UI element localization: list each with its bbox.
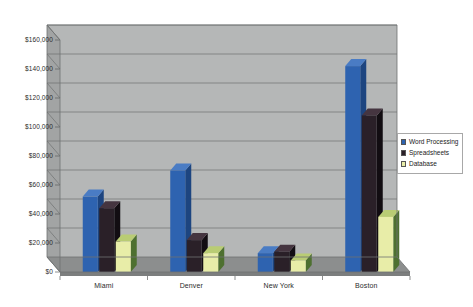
- x-axis-category-label: Boston: [326, 282, 406, 289]
- y-axis-tick-label: $0: [46, 268, 53, 275]
- legend-item-label: Word Processing: [409, 138, 458, 146]
- legend-item[interactable]: Database: [401, 159, 459, 169]
- x-axis-category-label: Denver: [151, 282, 231, 289]
- legend-item-label: Spreadsheets: [409, 149, 449, 157]
- chart-legend: Word ProcessingSpreadsheetsDatabase: [397, 133, 463, 174]
- y-axis-tick-label: $100,000: [25, 123, 53, 130]
- bar-denver-database: [203, 246, 224, 272]
- y-axis-tick-label: $60,000: [29, 181, 53, 188]
- legend-swatch-icon: [401, 161, 406, 167]
- bar-chart: $0$20,000$40,000$60,000$80,000$100,000$1…: [0, 0, 473, 307]
- y-axis-tick-label: $160,000: [25, 36, 53, 43]
- legend-swatch-icon: [401, 139, 406, 145]
- y-axis-tick-label: $80,000: [29, 152, 53, 159]
- legend-item-label: Database: [409, 160, 437, 168]
- y-axis-tick-label: $20,000: [29, 239, 53, 246]
- x-axis-category-label: Miami: [64, 282, 144, 289]
- floor-front-edge: [60, 272, 410, 276]
- legend-item[interactable]: Spreadsheets: [401, 148, 459, 158]
- y-axis-tick-label: $120,000: [25, 94, 53, 101]
- x-axis-category-label: New York: [239, 282, 319, 289]
- bar-boston-database: [378, 210, 399, 272]
- y-axis-tick-label: $40,000: [29, 210, 53, 217]
- y-axis-tick-label: $140,000: [25, 65, 53, 72]
- legend-item[interactable]: Word Processing: [401, 137, 459, 147]
- legend-swatch-icon: [401, 150, 406, 156]
- bar-miami-database: [116, 235, 137, 272]
